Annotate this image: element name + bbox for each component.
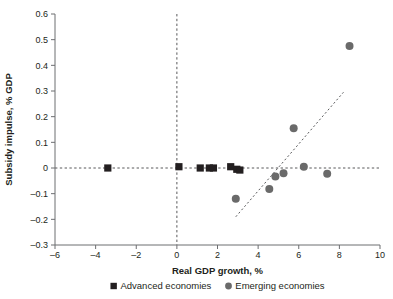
axis-lines <box>55 14 380 245</box>
x-tick-label: 8 <box>337 250 342 260</box>
data-point-advanced <box>210 164 217 171</box>
data-point-advanced <box>175 163 182 170</box>
data-points <box>104 42 353 203</box>
x-tick-label: 4 <box>256 250 261 260</box>
data-point-emerging <box>271 172 279 180</box>
x-tick-label: 10 <box>375 250 385 260</box>
data-point-advanced <box>236 166 243 173</box>
y-axis-title: Subsidy impulse, % GDP <box>3 73 14 186</box>
y-tick-label: 0.5 <box>35 35 48 45</box>
y-tick-label: 0.1 <box>35 138 48 148</box>
y-tick-label: –0.3 <box>30 240 48 250</box>
scatter-chart: –0.3–0.2–0.100.10.20.30.40.50.6 –6–4–202… <box>0 0 393 299</box>
x-axis-tick-labels: –6–4–20246810 <box>50 250 385 260</box>
x-tick-label: –6 <box>50 250 60 260</box>
legend-marker-advanced <box>110 283 116 289</box>
x-tick-label: –4 <box>91 250 101 260</box>
data-point-advanced <box>197 164 204 171</box>
data-point-advanced <box>104 164 111 171</box>
y-tick-label: 0.3 <box>35 86 48 96</box>
legend: Advanced economiesEmerging economies <box>110 280 324 291</box>
data-point-emerging <box>300 163 308 171</box>
axis-tick-marks <box>51 14 380 249</box>
y-tick-label: 0.6 <box>35 9 48 19</box>
legend-label-advanced: Advanced economies <box>120 280 211 291</box>
y-tick-label: –0.1 <box>30 189 48 199</box>
emerging-trendline <box>236 92 344 216</box>
chart-canvas: –0.3–0.2–0.100.10.20.30.40.50.6 –6–4–202… <box>0 0 393 299</box>
x-tick-label: 6 <box>296 250 301 260</box>
reference-lines <box>55 14 380 245</box>
x-tick-label: 2 <box>215 250 220 260</box>
y-axis-tick-labels: –0.3–0.2–0.100.10.20.30.40.50.6 <box>30 9 48 250</box>
trendline <box>236 92 344 216</box>
data-point-emerging <box>265 185 273 193</box>
x-axis-title: Real GDP growth, % <box>172 265 264 276</box>
data-point-emerging <box>232 195 240 203</box>
x-tick-label: –2 <box>131 250 141 260</box>
data-point-emerging <box>323 170 331 178</box>
legend-marker-emerging <box>225 283 232 290</box>
data-point-emerging <box>346 42 354 50</box>
data-point-emerging <box>280 169 288 177</box>
y-tick-label: 0 <box>43 163 48 173</box>
x-tick-label: 0 <box>174 250 179 260</box>
data-point-emerging <box>290 124 298 132</box>
y-tick-label: 0.4 <box>35 61 48 71</box>
legend-label-emerging: Emerging economies <box>235 280 324 291</box>
y-tick-label: 0.2 <box>35 112 48 122</box>
y-tick-label: –0.2 <box>30 215 48 225</box>
